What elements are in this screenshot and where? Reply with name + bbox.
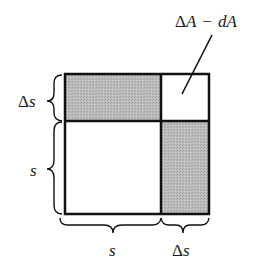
annotation-label: ΔA−dA bbox=[175, 12, 237, 31]
area-increment-diagram: ΔA−dA Δs s s Δs bbox=[0, 0, 263, 263]
left-label-s: s bbox=[30, 161, 37, 180]
top-strip-region bbox=[65, 74, 161, 121]
bottom-brace-delta-s bbox=[161, 218, 209, 233]
right-strip-region bbox=[161, 121, 209, 214]
left-brace-s bbox=[47, 122, 62, 214]
corner-square-region bbox=[161, 74, 209, 121]
left-label-delta-s: Δs bbox=[18, 92, 36, 111]
bottom-label-delta-s: Δs bbox=[172, 241, 190, 260]
bottom-brace-s bbox=[60, 218, 161, 233]
bottom-label-s: s bbox=[109, 241, 116, 260]
main-square-region bbox=[65, 121, 161, 214]
left-brace-delta-s bbox=[47, 75, 62, 121]
